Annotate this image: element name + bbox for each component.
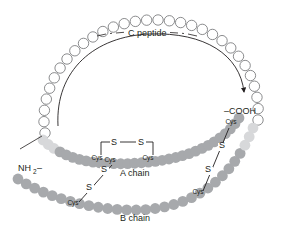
c-peptide-residue: [49, 73, 59, 83]
c-peptide-residue: [252, 92, 262, 102]
c-peptide-residue: [226, 43, 236, 53]
c-peptide-residue: [175, 17, 185, 27]
b-chain-residue: [248, 123, 259, 134]
c-peptide-residue: [164, 16, 174, 26]
c-peptide-residue: [39, 105, 49, 115]
sulfur-label-s-left-lower: S: [86, 182, 92, 192]
amino-terminus-dash: –: [37, 163, 42, 173]
c-peptide-residue: [217, 35, 227, 45]
c-peptide-leader-right: [170, 33, 197, 37]
c-peptide-residue: [245, 70, 255, 80]
carboxy-terminus-label: –COOH: [224, 106, 256, 116]
c-peptide-residue: [88, 32, 98, 42]
a-chain-label: A chain: [120, 168, 150, 178]
b-chain-residue: [93, 202, 104, 213]
c-peptide-residue: [249, 81, 259, 91]
b-chain-label: B chain: [120, 213, 150, 223]
cysteine-label-b-cys-19: Cys: [192, 188, 204, 196]
amino-terminus-label: NH 2 –: [18, 163, 42, 175]
sulfur-label-s-intra-right: S: [138, 137, 144, 147]
c-peptide-residue: [240, 60, 250, 70]
sulfur-label-s-intra-left: S: [111, 137, 117, 147]
b-chain-residue: [159, 201, 170, 212]
c-peptide-residue: [153, 15, 163, 25]
c-peptide-residue: [141, 15, 151, 25]
c-peptide-residue: [233, 51, 243, 61]
sulfur-label-s-right-upper: S: [219, 140, 225, 150]
c-peptide-residue: [55, 63, 65, 73]
c-peptide-residue: [44, 83, 54, 93]
c-peptide-residue: [186, 20, 196, 30]
cysteine-label-a-cys-6: Cys: [91, 154, 103, 162]
c-peptide-residue: [130, 16, 140, 26]
b-chain-residue: [102, 203, 113, 214]
c-peptide-residue: [197, 24, 207, 34]
b-chain-residue: [150, 203, 161, 214]
diagram-canvas: C peptide A chain B chain NH 2 – –COOH S…: [0, 0, 294, 236]
c-peptide-residue: [41, 94, 51, 104]
c-peptide-residue: [108, 22, 118, 32]
cysteine-label-a-cys-11: Cys: [142, 154, 154, 162]
amino-terminus-text: NH: [18, 163, 31, 173]
c-peptide-label: C peptide: [128, 28, 167, 38]
sulfur-label-s-left-upper: S: [101, 164, 107, 174]
c-peptide-residue: [207, 29, 217, 39]
cysteine-label-b-cys-7: Cys: [67, 199, 79, 207]
sulfur-label-s-right-lower: S: [205, 164, 211, 174]
c-peptide-residue: [39, 116, 49, 126]
c-peptide-residue: [70, 46, 80, 56]
c-peptide-residue: [62, 54, 72, 64]
proinsulin-diagram: C peptide A chain B chain NH 2 – –COOH S…: [0, 0, 294, 236]
cysteine-label-a-cys-7: Cys: [104, 156, 116, 164]
b-chain-residue: [83, 200, 94, 211]
b-chain-residue: [56, 193, 67, 204]
cysteine-label-a-cys-20: Cys: [225, 118, 237, 126]
c-peptide-residue: [78, 38, 88, 48]
